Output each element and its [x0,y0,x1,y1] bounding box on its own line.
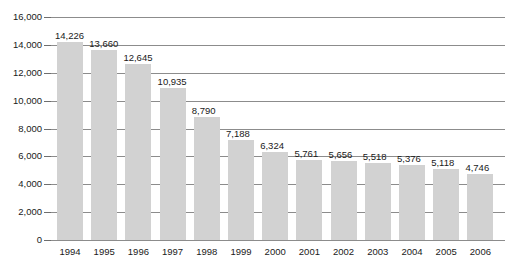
y-axis-label: 12,000 [0,68,42,78]
x-axis-label: 1994 [53,246,87,257]
x-axis-label: 1997 [156,246,190,257]
y-axis-tick [44,45,51,46]
y-axis-label-wrap: 6,000 [0,151,42,161]
bar-value-label: 5,518 [363,152,387,162]
y-axis-label: 10,000 [0,96,42,106]
bar [433,169,459,240]
y-axis-tick [44,184,51,185]
y-axis-label: 8,000 [0,124,42,134]
bar-value-label: 7,188 [226,129,250,139]
y-axis-label: 0 [0,235,42,245]
y-axis-tick [44,240,51,241]
y-axis-label: 2,000 [0,207,42,217]
y-axis-tick [44,17,51,18]
x-axis-label: 1995 [87,246,121,257]
y-axis-tick [44,129,51,130]
bar-value-label: 8,790 [192,106,216,116]
x-axis-label: 2001 [292,246,326,257]
y-axis-label-wrap: 2,000 [0,207,42,217]
x-axis-label: 1996 [121,246,155,257]
x-axis-label: 2000 [258,246,292,257]
bar-value-label: 14,226 [55,31,84,41]
y-axis-label-wrap: 8,000 [0,124,42,134]
y-axis-label-wrap: 10,000 [0,96,42,106]
x-axis-label: 2005 [429,246,463,257]
bar-value-label: 5,376 [397,154,421,164]
y-axis-label-wrap: 4,000 [0,179,42,189]
bar [331,161,357,240]
bar [57,42,83,240]
bar [91,50,117,240]
bar [262,152,288,240]
x-axis-label: 2006 [463,246,497,257]
plot-area: 02,0004,0006,0008,00010,00012,00014,0001… [0,0,521,268]
bar-value-label: 5,118 [431,158,454,168]
y-axis-label-wrap: 14,000 [0,40,42,50]
bar [467,174,493,240]
bar [125,64,151,240]
x-axis-label: 2003 [361,246,395,257]
y-axis-label: 6,000 [0,151,42,161]
bar [160,88,186,240]
bar [399,165,425,240]
y-axis-tick [44,156,51,157]
y-axis-label-wrap: 0 [0,235,42,245]
x-axis-label: 1998 [190,246,224,257]
x-axis-label: 2004 [395,246,429,257]
y-axis-label: 14,000 [0,40,42,50]
bar-value-label: 5,656 [329,150,353,160]
x-axis-label: 2002 [327,246,361,257]
y-axis-label: 4,000 [0,179,42,189]
gridline [48,17,505,18]
bar-chart: 02,0004,0006,0008,00010,00012,00014,0001… [0,0,521,268]
y-axis-label: 16,000 [0,12,42,22]
bar [296,160,322,240]
bar-value-label: 5,761 [294,149,318,159]
y-axis-tick [44,212,51,213]
bar-value-label: 12,645 [123,53,152,63]
bar-value-label: 6,324 [260,141,284,151]
y-axis-label-wrap: 12,000 [0,68,42,78]
bar-value-label: 4,746 [465,163,489,173]
bar-value-label: 10,935 [158,77,187,87]
y-axis-tick [44,101,51,102]
bar-value-label: 13,660 [89,39,118,49]
x-axis-label: 1999 [224,246,258,257]
bar [194,117,220,240]
bar [365,163,391,240]
gridline [48,240,505,241]
y-axis-tick [44,73,51,74]
bar [228,140,254,240]
y-axis-label-wrap: 16,000 [0,12,42,22]
